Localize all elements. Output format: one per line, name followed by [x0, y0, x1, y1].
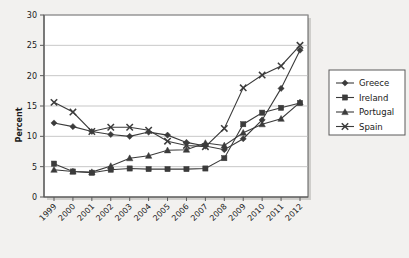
data-point-square [146, 166, 151, 171]
data-point-square [127, 166, 132, 171]
y-tick-label: 0 [32, 193, 37, 202]
legend-label: Greece [359, 78, 389, 88]
legend-label: Portugal [359, 107, 394, 117]
y-axis-title: Percent [15, 107, 24, 142]
data-point-square [184, 166, 189, 171]
data-point-square [51, 161, 56, 166]
data-point-square [260, 110, 265, 115]
y-tick-label: 20 [27, 72, 37, 81]
y-tick-label: 25 [27, 41, 37, 50]
legend-label: Spain [359, 122, 383, 132]
data-point-square [342, 95, 347, 100]
data-point-square [241, 122, 246, 127]
line-chart: 051015202530 199920002001200220032004200… [0, 0, 409, 258]
y-tick-label: 30 [27, 11, 37, 20]
y-tick-label: 10 [27, 132, 37, 141]
data-point-square [222, 156, 227, 161]
y-tick-label: 15 [27, 102, 37, 111]
y-tick-label: 5 [32, 163, 37, 172]
data-point-square [203, 166, 208, 171]
data-point-square [165, 166, 170, 171]
legend-label: Ireland [359, 93, 388, 103]
data-point-square [278, 105, 283, 110]
